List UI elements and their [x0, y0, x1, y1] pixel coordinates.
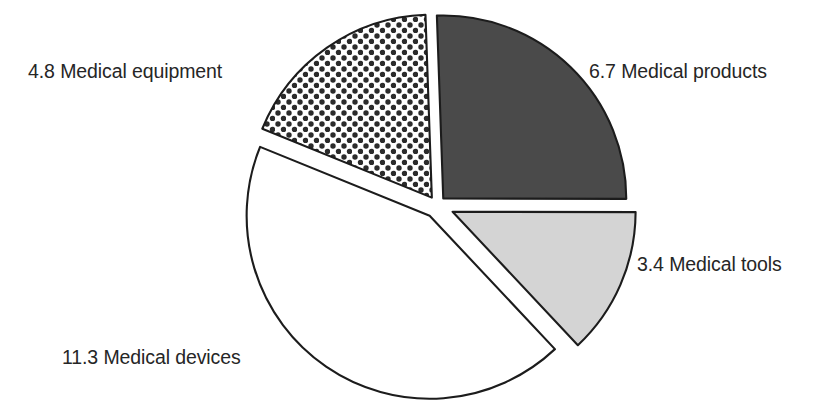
pie-label-medical-tools: 3.4 Medical tools [637, 255, 782, 275]
pie-label-medical-devices: 11.3 Medical devices [62, 348, 241, 368]
pie-label-medical-equipment: 4.8 Medical equipment [28, 62, 222, 82]
pie-slices [247, 15, 636, 399]
pie-chart: 4.8 Medical equipment 6.7 Medical produc… [0, 0, 823, 404]
pie-slice-medical-products[interactable] [437, 16, 626, 199]
pie-label-medical-products: 6.7 Medical products [589, 62, 767, 82]
